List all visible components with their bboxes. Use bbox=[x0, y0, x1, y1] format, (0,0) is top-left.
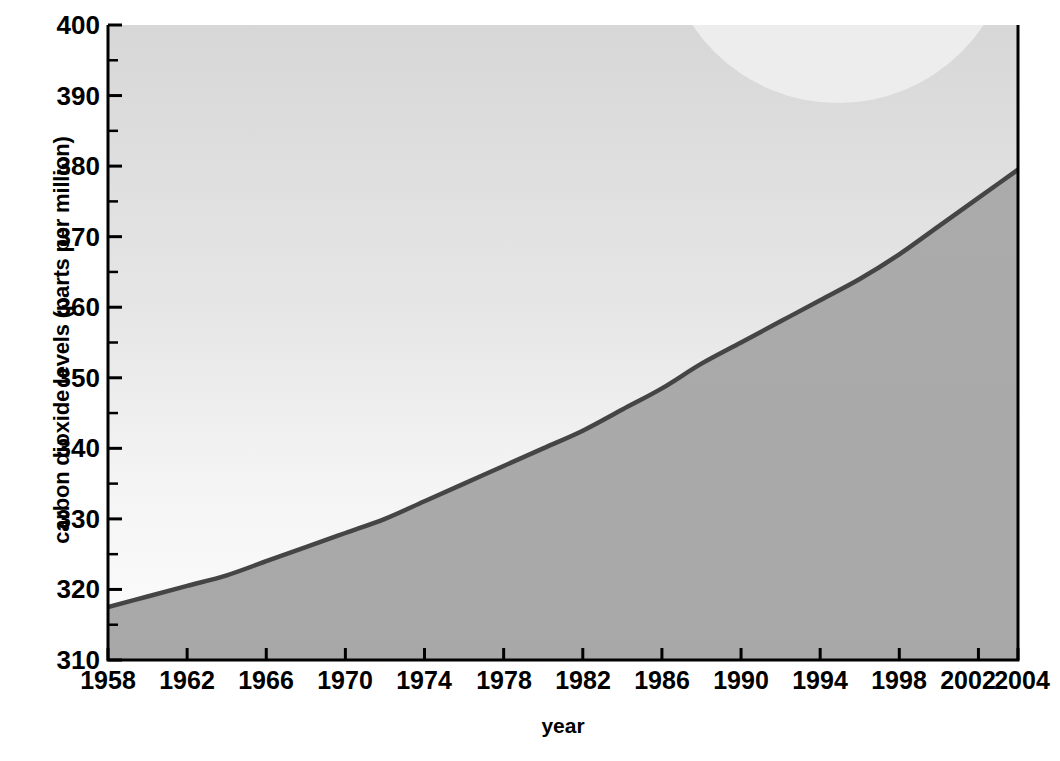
co2-chart: carbon dioxide levels (parts per million… bbox=[0, 0, 1060, 761]
plot-area bbox=[0, 0, 1060, 761]
